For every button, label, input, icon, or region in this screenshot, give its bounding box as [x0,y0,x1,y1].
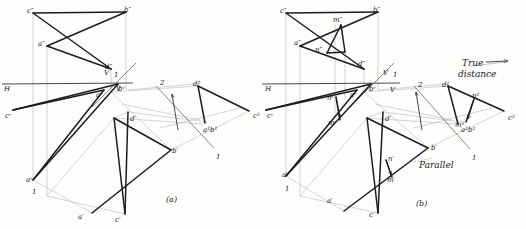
plane-label-b: V [383,70,388,77]
point-label-a: b′ [172,148,178,155]
point-label-a: d² [193,81,200,88]
point-label-b: n² [472,93,479,100]
point-label-b: cᵛ [267,113,274,120]
point-label-b: m″ [333,17,342,24]
point-label-a: c² [253,113,260,120]
point-label-a: aᵛ [26,177,33,184]
plane-label-a: H [4,86,10,93]
figure-a-ground-line [2,83,133,84]
point-label-b: m′ [387,177,395,184]
figure-a-object-lines [13,12,249,214]
point-label-a: d′ [130,116,136,123]
point-label-a: cᵛ [5,113,12,120]
point-label-b: n″ [315,47,322,54]
point-label-b: c″ [280,8,287,15]
point-label-b: mᵛ [328,120,337,127]
plane-label-a: 1 [114,72,118,79]
point-label-b: b′ [431,145,437,152]
point-label-b: bᵛ [369,86,376,93]
point-label-b: nᵛ [327,95,334,102]
fold-line-label-b: 2 [418,82,422,89]
fold-line-label-a: 2 [160,80,164,87]
point-label-b: c′ [369,212,375,219]
point-label-b: b″ [373,7,380,14]
point-label-b: a′ [327,198,333,205]
point-label-b: d′ [385,116,391,123]
point-label-b: 1 [285,186,289,193]
point-label-a: c″ [27,8,34,15]
figure-caption-a: (a) [166,196,177,204]
point-label-a: a²b² [203,127,217,134]
point-label-a: a′ [78,214,84,221]
point-label-a: aᵛ [96,92,103,99]
annotation-b: True [462,59,483,68]
point-label-a: b″ [124,7,131,14]
point-label-b: a²b² [461,127,475,134]
figure-b-ground-line [262,83,400,84]
plane-label-b: H [265,86,271,93]
point-label-a: c′ [115,217,121,224]
figure-b-fold-line-2 [414,86,470,149]
point-label-a: 1 [32,189,36,196]
point-label-b: aᵛ [282,172,289,179]
annotation-b: distance [458,70,496,79]
point-label-b: d² [442,82,449,89]
projection-linework [0,0,526,229]
plane-label-b: V [390,87,395,94]
drawing-canvas: c″b″a″d″aᵛbᵛcᵛaᵛ1d′b′a′c′d²c²a²b²HV1V21(… [0,0,526,229]
fold-line-label-b: 1 [472,155,476,162]
plane-label-a: V [116,86,121,93]
figure-a-fold-line-2 [156,86,214,148]
point-label-b: d″ [358,61,365,68]
figure-b-construction [286,12,506,213]
point-label-b: n′ [388,156,394,163]
plane-label-b: 1 [393,72,397,79]
figure-a-construction [33,12,249,214]
plane-label-a: V [104,70,109,77]
point-label-b: a″ [294,40,301,47]
point-label-b: aᵛ [350,92,357,99]
annotation-b: Parallel [419,161,454,170]
figure-caption-b: (b) [416,200,427,208]
fold-line-label-a: 1 [216,154,220,161]
point-label-a: a″ [38,41,45,48]
point-label-b: c² [508,115,515,122]
